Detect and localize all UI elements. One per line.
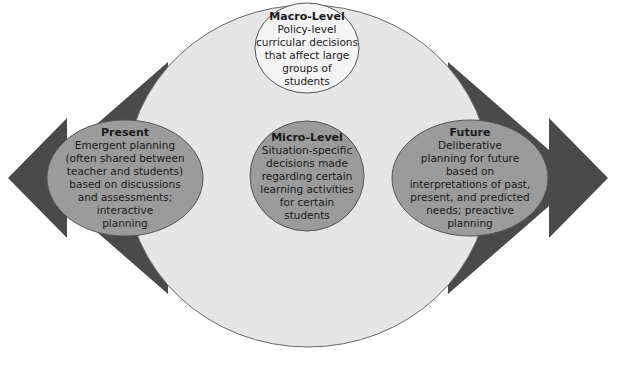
future-node: Future Deliberative planning for future … — [395, 121, 545, 235]
future-description: Deliberative planning for future based o… — [410, 139, 531, 230]
macro-level-node: Macro-Level Policy-level curricular deci… — [247, 4, 367, 94]
macro-level-title: Macro-Level — [269, 10, 344, 23]
future-title: Future — [450, 126, 491, 139]
macro-level-description: Policy-level curricular decisions that a… — [256, 23, 358, 88]
micro-level-title: Micro-Level — [271, 131, 343, 144]
present-node: Present Emergent planning (often shared … — [50, 121, 200, 235]
micro-level-description: Situation-specific decisions made regard… — [260, 144, 354, 222]
present-description: Emergent planning (often shared between … — [65, 139, 184, 230]
present-title: Present — [101, 126, 149, 139]
micro-level-node: Micro-Level Situation-specific decisions… — [244, 121, 370, 231]
